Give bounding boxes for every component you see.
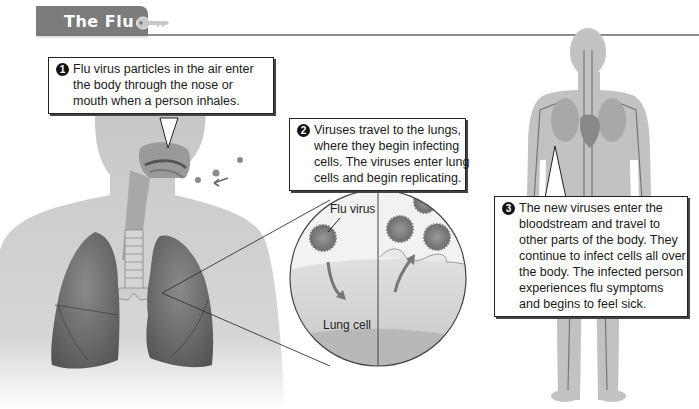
callout-step-2: 2Viruses travel to the lungs, where they… bbox=[289, 118, 466, 191]
step-number-badge: 2 bbox=[297, 124, 310, 137]
virus-particle bbox=[387, 216, 413, 242]
airborne-virus-particles bbox=[195, 157, 243, 186]
flu-virus-label: Flu virus bbox=[330, 202, 375, 216]
step-number-badge: 1 bbox=[56, 63, 69, 76]
step-number-badge: 3 bbox=[502, 202, 515, 215]
virus-particle bbox=[310, 225, 336, 251]
callout-step-1: 1Flu virus particles in the air enter th… bbox=[48, 57, 274, 114]
lung-cell-label: Lung cell bbox=[323, 318, 371, 332]
callout-step-3: 3The new viruses enter the bloodstream a… bbox=[494, 196, 688, 317]
virus-particle bbox=[424, 224, 450, 250]
magnified-lung-cell bbox=[290, 190, 470, 370]
